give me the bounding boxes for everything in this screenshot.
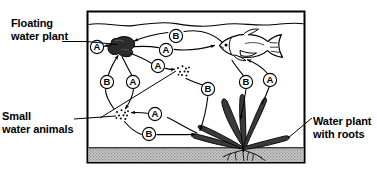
marker-m9: A [263,73,276,86]
label-water-plant-with-roots-line2: with roots [313,128,365,140]
svg-text:A: A [152,108,159,119]
svg-text:A: A [163,44,170,55]
label-water-plant-with-roots: Water plantwith roots [313,115,371,140]
marker-m7: B [201,82,214,95]
svg-text:A: A [155,60,162,71]
substrate-band [89,148,304,163]
marker-m6: A [126,75,139,88]
marker-m2: B [169,29,182,42]
marker-m3: A [159,43,172,56]
marker-m10: A [148,107,161,120]
label-floating-water-plant: Floatingwater plant [11,17,68,42]
marker-m11: B [142,127,155,140]
svg-text:B: B [205,83,212,94]
svg-text:B: B [104,76,111,87]
svg-text:A: A [267,74,274,85]
label-floating-water-plant-line1: Floating [11,17,53,29]
label-water-plant-with-roots-line1: Water plant [313,115,371,127]
marker-m8: B [239,75,252,88]
label-small-water-animals-line1: Small [2,110,31,122]
marker-m5: B [100,75,113,88]
svg-text:B: B [243,76,250,87]
label-floating-water-plant-line2: water plant [11,30,68,42]
svg-text:A: A [130,76,137,87]
svg-text:B: B [173,30,180,41]
marker-m4: A [151,59,164,72]
svg-text:B: B [146,128,153,139]
label-small-water-animals-line2: water animals [2,123,73,135]
label-small-water-animals: Smallwater animals [2,110,73,135]
